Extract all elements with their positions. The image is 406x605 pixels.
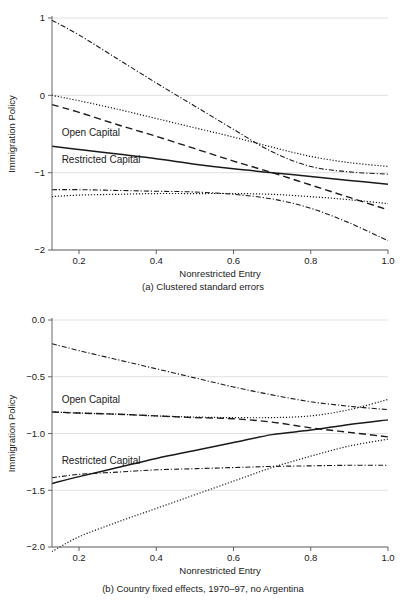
series-annotation-b-1: Restricted Capital — [62, 455, 141, 466]
annotations-b: Open CapitalRestricted Capital — [62, 394, 141, 466]
x-tick-label-0: 0.2 — [72, 552, 85, 563]
gridlines-b — [52, 320, 388, 547]
x-axis-title: Nonrestricted Entry — [179, 268, 261, 279]
chart-panel-a: 10−1−20.20.40.60.81.0Nonrestricted Entry… — [0, 0, 406, 300]
series-annotation-a-0: Open Capital — [62, 127, 120, 138]
panel-caption-b: (b) Country fixed effects, 1970–97, no A… — [102, 583, 304, 594]
y-tick-label-2: −1.0 — [26, 428, 45, 439]
series-line-b-3 — [52, 420, 388, 484]
x-tick-label-4: 1.0 — [381, 552, 394, 563]
x-tick-group-b: 0.20.40.60.81.0 — [72, 547, 394, 563]
y-tick-label-0: 0.0 — [32, 314, 45, 325]
y-axis-title: Immigration Policy — [6, 95, 17, 173]
x-tick-label-0: 0.2 — [72, 255, 85, 266]
x-tick-group-a: 0.20.40.60.81.0 — [72, 250, 394, 266]
y-tick-label-1: 0 — [40, 90, 45, 101]
x-tick-label-1: 0.4 — [150, 552, 163, 563]
series-line-a-2 — [52, 193, 388, 203]
x-axis-title: Nonrestricted Entry — [179, 565, 261, 576]
y-tick-label-4: −2.0 — [26, 541, 45, 552]
x-tick-label-3: 0.8 — [304, 552, 317, 563]
series-annotation-a-1: Restricted Capital — [62, 154, 141, 165]
series-line-a-4 — [52, 20, 388, 174]
x-tick-label-2: 0.6 — [227, 255, 240, 266]
x-tick-label-4: 1.0 — [381, 255, 394, 266]
y-tick-label-0: 1 — [40, 12, 45, 23]
series-group-b — [52, 344, 388, 552]
y-tick-group-b: 0.0−0.5−1.0−1.5−2.0 — [26, 314, 52, 552]
y-tick-label-2: −1 — [34, 167, 45, 178]
x-tick-label-2: 0.6 — [227, 552, 240, 563]
y-tick-label-3: −2 — [34, 244, 45, 255]
y-tick-label-3: −1.5 — [26, 485, 45, 496]
series-annotation-b-0: Open Capital — [62, 394, 120, 405]
y-axis-title: Immigration Policy — [6, 394, 17, 472]
y-tick-group-a: 10−1−2 — [34, 12, 52, 255]
series-line-a-5 — [52, 190, 388, 241]
chart-svg-b: 0.0−0.5−1.0−1.5−2.00.20.40.60.81.0Nonres… — [0, 300, 406, 605]
annotations-a: Open CapitalRestricted Capital — [62, 127, 141, 164]
series-line-a-3 — [52, 146, 388, 184]
x-tick-label-3: 0.8 — [304, 255, 317, 266]
figure-container: 10−1−20.20.40.60.81.0Nonrestricted Entry… — [0, 0, 406, 605]
axes-b — [52, 318, 388, 547]
chart-svg-a: 10−1−20.20.40.60.81.0Nonrestricted Entry… — [0, 0, 406, 300]
x-tick-label-1: 0.4 — [150, 255, 163, 266]
y-tick-label-1: −0.5 — [26, 371, 45, 382]
panel-caption-a: (a) Clustered standard errors — [142, 281, 264, 292]
chart-panel-b: 0.0−0.5−1.0−1.5−2.00.20.40.60.81.0Nonres… — [0, 300, 406, 605]
